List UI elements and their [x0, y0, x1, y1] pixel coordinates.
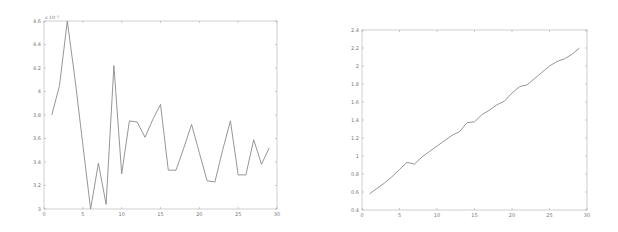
x-tick-label: 30: [274, 211, 280, 217]
y-tick-label: 0.6: [351, 189, 359, 195]
y-tick-label: 2.2: [351, 45, 359, 51]
y-tick-label: 1.8: [351, 81, 359, 87]
x-tick-label: 25: [235, 211, 241, 217]
y-tick-label: 4.6: [33, 18, 41, 24]
y-tick-label: 3.2: [33, 182, 41, 188]
y-tick-label: 3.4: [33, 159, 41, 165]
x-tick-label: 10: [434, 212, 440, 218]
y-tick-label: 4: [38, 88, 41, 94]
x-tick-label: 5: [81, 211, 84, 217]
chart-right-svg: 0510152025300.40.60.811.21.41.61.822.22.…: [310, 0, 618, 232]
y-tick-label: 4.4: [33, 41, 41, 47]
y-multiplier-label: x 10⁻³: [45, 15, 59, 20]
y-tick-label: 3.8: [33, 112, 41, 118]
x-tick-label: 30: [584, 212, 590, 218]
x-tick-label: 15: [471, 212, 477, 218]
data-line-series1: [370, 48, 580, 194]
y-tick-label: 3: [38, 206, 41, 212]
y-tick-label: 1.6: [351, 99, 359, 105]
y-tick-label: 1.2: [351, 135, 359, 141]
y-tick-label: 0.4: [351, 207, 359, 213]
y-tick-label: 1.4: [351, 117, 359, 123]
x-tick-label: 0: [42, 211, 45, 217]
x-tick-label: 20: [509, 212, 515, 218]
y-tick-label: 3.6: [33, 135, 41, 141]
chart-right: 0510152025300.40.60.811.21.41.61.822.22.…: [310, 0, 618, 232]
x-tick-label: 20: [196, 211, 202, 217]
x-tick-label: 0: [360, 212, 363, 218]
x-tick-label: 25: [546, 212, 552, 218]
y-tick-label: 2.4: [351, 27, 359, 33]
x-tick-label: 10: [118, 211, 124, 217]
chart-left-svg: 05101520253033.23.43.63.844.24.44.6x 10⁻…: [0, 0, 300, 232]
x-tick-label: 5: [398, 212, 401, 218]
y-tick-label: 4.2: [33, 65, 41, 71]
y-tick-label: 2: [356, 63, 359, 69]
chart-left: 05101520253033.23.43.63.844.24.44.6x 10⁻…: [0, 0, 300, 232]
data-line-series1: [52, 21, 269, 209]
plot-frame: [362, 30, 587, 210]
y-tick-label: 1: [356, 153, 359, 159]
x-tick-label: 15: [157, 211, 163, 217]
y-tick-label: 0.8: [351, 171, 359, 177]
